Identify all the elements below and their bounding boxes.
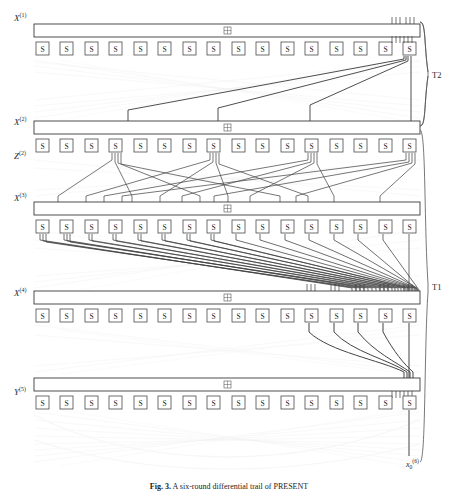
svg-text:S: S xyxy=(383,223,387,232)
svg-text:S: S xyxy=(211,142,215,151)
svg-text:S: S xyxy=(211,312,215,321)
svg-text:S: S xyxy=(187,223,191,232)
svg-text:S: S xyxy=(383,45,387,54)
svg-text:S: S xyxy=(40,223,44,232)
svg-text:S: S xyxy=(236,45,240,54)
state-label-x1: X(1) xyxy=(14,12,27,23)
svg-text:S: S xyxy=(309,312,313,321)
brace-label-t1: T1 xyxy=(432,282,441,292)
svg-text:S: S xyxy=(309,223,313,232)
state-label-x3: X(3) xyxy=(14,192,27,203)
figure-caption: Fig. 3. A six-round differential trail o… xyxy=(0,480,458,494)
row-x3-state-bar xyxy=(34,202,420,215)
svg-text:S: S xyxy=(187,312,191,321)
svg-text:S: S xyxy=(407,142,411,151)
row-x2-sbox-layer: SSS SSS SSS SSS SSS S xyxy=(36,139,416,152)
svg-text:S: S xyxy=(285,223,289,232)
svg-text:S: S xyxy=(138,142,142,151)
svg-text:S: S xyxy=(162,399,166,408)
svg-text:S: S xyxy=(407,45,411,54)
svg-text:S: S xyxy=(309,142,313,151)
svg-text:S: S xyxy=(40,142,44,151)
svg-text:S: S xyxy=(113,312,117,321)
svg-text:S: S xyxy=(260,399,264,408)
svg-text:S: S xyxy=(138,312,142,321)
state-label-z2: Z(2) xyxy=(14,150,26,161)
brace-t1 xyxy=(420,130,428,462)
svg-text:S: S xyxy=(358,45,362,54)
svg-text:S: S xyxy=(260,312,264,321)
svg-text:S: S xyxy=(407,312,411,321)
svg-text:S: S xyxy=(334,142,338,151)
svg-text:S: S xyxy=(211,399,215,408)
row-x1-state-bar xyxy=(34,24,420,37)
permutation-lines-round1 xyxy=(128,56,411,121)
row-x1-input-ticks xyxy=(392,17,414,24)
svg-text:S: S xyxy=(64,312,68,321)
svg-text:S: S xyxy=(285,399,289,408)
svg-text:S: S xyxy=(236,142,240,151)
svg-text:S: S xyxy=(334,45,338,54)
svg-text:S: S xyxy=(260,45,264,54)
row-x3-sbox-layer: SSS SSS SSS SSS SSS S xyxy=(36,220,416,233)
svg-text:S: S xyxy=(89,142,93,151)
svg-text:S: S xyxy=(64,45,68,54)
svg-text:S: S xyxy=(187,399,191,408)
svg-text:S: S xyxy=(162,223,166,232)
svg-text:S: S xyxy=(162,142,166,151)
svg-text:S: S xyxy=(236,312,240,321)
state-label-y5: Y(5) xyxy=(14,386,26,397)
svg-text:S: S xyxy=(383,399,387,408)
svg-text:S: S xyxy=(40,312,44,321)
state-label-x2: X(2) xyxy=(14,116,27,127)
figure-caption-text: A six-round differential trail of PRESEN… xyxy=(173,482,309,491)
svg-text:S: S xyxy=(285,312,289,321)
permutation-lines-round3 xyxy=(40,234,419,291)
svg-text:S: S xyxy=(358,312,362,321)
svg-text:S: S xyxy=(40,399,44,408)
svg-text:S: S xyxy=(138,399,142,408)
svg-text:S: S xyxy=(64,399,68,408)
svg-text:S: S xyxy=(383,142,387,151)
svg-text:S: S xyxy=(334,223,338,232)
svg-text:S: S xyxy=(309,399,313,408)
svg-text:S: S xyxy=(187,142,191,151)
svg-text:S: S xyxy=(211,223,215,232)
svg-text:S: S xyxy=(334,399,338,408)
svg-text:S: S xyxy=(89,399,93,408)
svg-text:S: S xyxy=(40,45,44,54)
figure-present-trail: SSS SSS SSS SSS SSS S xyxy=(0,0,458,494)
svg-text:S: S xyxy=(64,142,68,151)
brace-label-t2: T2 xyxy=(432,70,441,80)
svg-text:S: S xyxy=(407,399,411,408)
svg-text:S: S xyxy=(260,223,264,232)
svg-text:S: S xyxy=(138,45,142,54)
row-x1-sbox-layer: SSS SSS SSS SSS SSS S xyxy=(36,36,416,55)
permutation-lines-round2 xyxy=(58,153,415,202)
svg-text:S: S xyxy=(162,45,166,54)
figure-caption-number: Fig. 3. xyxy=(150,482,171,491)
svg-text:S: S xyxy=(113,399,117,408)
diagram-canvas: SSS SSS SSS SSS SSS S xyxy=(0,0,458,494)
svg-text:S: S xyxy=(138,223,142,232)
svg-text:S: S xyxy=(211,45,215,54)
permutation-lines-round4 xyxy=(309,323,413,378)
row-y5-sbox-layer: SSS SSS SSS SSS SSS S xyxy=(36,396,416,409)
svg-text:S: S xyxy=(260,142,264,151)
svg-text:S: S xyxy=(89,223,93,232)
svg-text:S: S xyxy=(113,45,117,54)
row-x4-sbox-layer: SSS SSS SSS SSS SSS S xyxy=(36,309,416,322)
svg-text:S: S xyxy=(113,142,117,151)
svg-text:S: S xyxy=(89,312,93,321)
row-x2-state-bar xyxy=(34,121,420,134)
svg-text:S: S xyxy=(162,312,166,321)
svg-text:S: S xyxy=(64,223,68,232)
svg-text:S: S xyxy=(285,45,289,54)
svg-text:S: S xyxy=(334,312,338,321)
svg-text:S: S xyxy=(358,223,362,232)
state-label-x4: X(4) xyxy=(14,287,27,298)
svg-text:S: S xyxy=(358,142,362,151)
row-y5-state-bar xyxy=(34,378,420,391)
svg-text:S: S xyxy=(309,45,313,54)
svg-text:S: S xyxy=(383,312,387,321)
